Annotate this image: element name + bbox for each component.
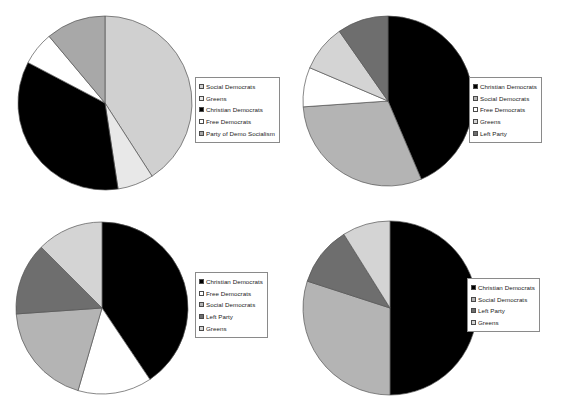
legend-item[interactable]: Christian Democrats xyxy=(199,104,275,116)
legend-item-label: Free Democrats xyxy=(206,118,251,125)
legend-item-label: Social Democrats xyxy=(206,83,255,90)
legend-swatch-icon xyxy=(199,279,204,284)
legend-item-label: Free Democrats xyxy=(206,290,251,297)
legend-item-label: Christian Democrats xyxy=(206,278,263,285)
legend-item[interactable]: Social Democrats xyxy=(473,93,537,105)
legend-item[interactable]: Christian Democrats xyxy=(471,282,535,294)
legend-item-label: Social Democrats xyxy=(478,296,527,303)
legend-item-label: Greens xyxy=(480,118,501,125)
legend-item-label: Christian Democrats xyxy=(206,106,263,113)
legend-swatch-icon xyxy=(471,297,476,302)
chart-panel-top-right: Christian DemocratsSocial DemocratsFree … xyxy=(286,0,571,207)
pie-chart-bottom-right xyxy=(302,220,478,396)
legend-item-label: Greens xyxy=(478,319,499,326)
legend-item-label: Greens xyxy=(206,95,227,102)
legend-item-label: Left Party xyxy=(206,313,233,320)
legend-item[interactable]: Social Democrats xyxy=(199,81,275,93)
legend-item[interactable]: Christian Democrats xyxy=(473,81,537,93)
pie-slices xyxy=(302,220,478,396)
legend-item[interactable]: Left Party xyxy=(471,305,535,317)
legend-swatch-icon xyxy=(199,107,204,112)
legend-swatch-icon xyxy=(473,131,478,136)
pie-slices xyxy=(17,15,193,191)
legend-item[interactable]: Left Party xyxy=(199,311,263,323)
legend-item[interactable]: Free Democrats xyxy=(199,116,275,128)
pie-chart-top-left xyxy=(17,15,193,191)
legend-swatch-icon xyxy=(199,302,204,307)
legend-swatch-icon xyxy=(471,285,476,290)
pie-slices xyxy=(302,15,474,187)
legend-swatch-icon xyxy=(199,96,204,101)
legend-swatch-icon xyxy=(471,308,476,313)
legend-item-label: Party of Demo Socialism xyxy=(206,130,275,137)
legend-item-label: Social Democrats xyxy=(480,95,529,102)
legend-swatch-icon xyxy=(473,107,478,112)
legend-item[interactable]: Greens xyxy=(199,322,263,334)
legend-swatch-icon xyxy=(199,84,204,89)
legend-swatch-icon xyxy=(473,96,478,101)
legend-item[interactable]: Greens xyxy=(199,93,275,105)
legend-item-label: Greens xyxy=(206,325,227,332)
legend-item-label: Social Democrats xyxy=(206,301,255,308)
pie-chart-top-right xyxy=(302,15,474,187)
legend-item-label: Left Party xyxy=(480,130,507,137)
legend-item-label: Left Party xyxy=(478,307,505,314)
chart-panel-top-left: Social DemocratsGreensChristian Democrat… xyxy=(0,0,285,207)
legend-item[interactable]: Party of Demo Socialism xyxy=(199,127,275,139)
legend-item[interactable]: Social Democrats xyxy=(199,299,263,311)
pie-chart-grid: Social DemocratsGreensChristian Democrat… xyxy=(0,0,571,415)
legend-item[interactable]: Social Democrats xyxy=(471,294,535,306)
legend-swatch-icon xyxy=(199,314,204,319)
legend-top-right: Christian DemocratsSocial DemocratsFree … xyxy=(469,77,542,143)
legend-item[interactable]: Greens xyxy=(471,317,535,329)
legend-top-left: Social DemocratsGreensChristian Democrat… xyxy=(195,77,280,143)
pie-slices xyxy=(15,221,189,395)
legend-swatch-icon xyxy=(199,131,204,136)
legend-bottom-right: Christian DemocratsSocial DemocratsLeft … xyxy=(467,278,540,332)
legend-item[interactable]: Christian Democrats xyxy=(199,276,263,288)
legend-item[interactable]: Free Democrats xyxy=(473,104,537,116)
legend-swatch-icon xyxy=(199,291,204,296)
legend-item-label: Christian Democrats xyxy=(480,83,537,90)
chart-panel-bottom-right: Christian DemocratsSocial DemocratsLeft … xyxy=(286,208,571,415)
legend-swatch-icon xyxy=(473,119,478,124)
legend-item-label: Free Democrats xyxy=(480,106,525,113)
legend-swatch-icon xyxy=(199,119,204,124)
legend-item[interactable]: Free Democrats xyxy=(199,288,263,300)
pie-slice[interactable] xyxy=(390,221,477,395)
legend-swatch-icon xyxy=(471,320,476,325)
legend-swatch-icon xyxy=(473,84,478,89)
pie-chart-bottom-left xyxy=(15,221,189,395)
legend-swatch-icon xyxy=(199,326,204,331)
legend-item[interactable]: Left Party xyxy=(473,127,537,139)
chart-panel-bottom-left: Christian DemocratsFree DemocratsSocial … xyxy=(0,208,285,415)
legend-item[interactable]: Greens xyxy=(473,116,537,128)
legend-bottom-left: Christian DemocratsFree DemocratsSocial … xyxy=(195,272,268,338)
legend-item-label: Christian Democrats xyxy=(478,284,535,291)
